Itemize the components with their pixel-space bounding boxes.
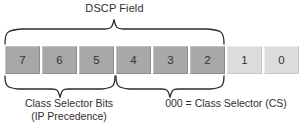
bit-cell-6: 6: [42, 46, 77, 74]
bit-label: 7: [19, 54, 25, 66]
cs-value-caption: 000 = Class Selector (CS): [148, 97, 304, 110]
class-selector-caption: Class Selector Bits (IP Precedence): [0, 97, 138, 123]
class-selector-brace-right-half: [60, 76, 115, 97]
cs-value-caption-line1: 000 = Class Selector (CS): [148, 97, 304, 110]
bit-label: 2: [204, 54, 210, 66]
bit-cell-7: 7: [5, 46, 40, 74]
class-selector-caption-line2: (IP Precedence): [0, 110, 138, 123]
bit-cell-4: 4: [116, 46, 151, 74]
cs-value-brace-right-half: [170, 76, 224, 97]
bit-label: 6: [56, 54, 62, 66]
dscp-field-diagram: DSCP Field 7 6 5 4 3 2 1 0: [0, 0, 304, 128]
class-selector-brace-left-half: [5, 76, 60, 97]
dscp-field-title: DSCP Field: [0, 2, 229, 14]
class-selector-caption-line1: Class Selector Bits: [0, 97, 138, 110]
bit-cell-2: 2: [190, 46, 225, 74]
dscp-field-brace-right-half: [114, 20, 224, 44]
bit-label: 3: [167, 54, 173, 66]
bit-cell-5: 5: [79, 46, 114, 74]
bit-label: 1: [241, 54, 247, 66]
bit-label: 4: [130, 54, 136, 66]
dscp-field-brace-left-half: [5, 20, 114, 44]
cs-value-brace-left-half: [116, 76, 170, 97]
bit-cell-0: 0: [264, 46, 299, 74]
bit-label: 5: [93, 54, 99, 66]
bit-cell-1: 1: [227, 46, 262, 74]
bit-label: 0: [278, 54, 284, 66]
bit-strip: 7 6 5 4 3 2 1 0: [5, 46, 299, 74]
bit-cell-3: 3: [153, 46, 188, 74]
